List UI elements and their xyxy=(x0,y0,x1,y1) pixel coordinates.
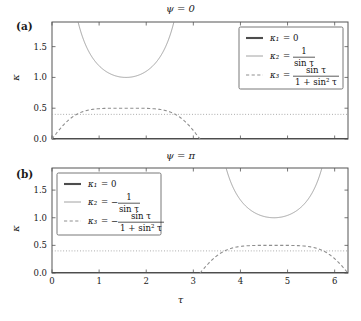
y-tick-label: 0.5 xyxy=(33,240,47,250)
y-tick-label: 0.0 xyxy=(33,268,47,278)
x-tick-label: 2 xyxy=(144,276,149,286)
legend-value-1: 0 xyxy=(111,179,116,189)
legend-equals-1: = xyxy=(283,33,290,43)
legend-numerator-3: sin τ xyxy=(306,65,326,75)
legend-equals-3: = xyxy=(283,70,290,80)
legend-equals-2: = xyxy=(283,51,290,61)
y-tick-label: 1.0 xyxy=(33,72,47,82)
panel-b-title: ψ = π xyxy=(0,150,361,161)
panel-a-tag: (a) xyxy=(16,20,33,32)
panel-a: (a) ψ = 0 κ 0.00.51.01.5κ₁=0κ₂=1sin τκ₃=… xyxy=(0,0,361,155)
x-tick-label: 0 xyxy=(49,276,54,286)
x-tick-label: 1 xyxy=(96,276,101,286)
x-tick-label: 3 xyxy=(191,276,196,286)
y-tick-label: 1.5 xyxy=(33,185,47,195)
legend-sign-2: − xyxy=(111,197,118,207)
y-tick-label: 1.0 xyxy=(33,213,47,223)
x-tick-label: 5 xyxy=(285,276,290,286)
legend-numerator-3: sin τ xyxy=(131,211,151,221)
legend-equals-3: = xyxy=(101,216,108,226)
y-tick-label: 1.5 xyxy=(33,42,47,52)
panel-b: (b) ψ = π κ τ 01234560.00.51.01.5κ₁=0κ₂=… xyxy=(0,155,361,321)
legend-label-3: κ₃ xyxy=(269,70,280,80)
panel-b-y-axis-label: κ xyxy=(10,222,21,236)
legend-label-3: κ₃ xyxy=(87,216,98,226)
figure-curvature-branches: (a) ψ = 0 κ 0.00.51.01.5κ₁=0κ₂=1sin τκ₃=… xyxy=(0,0,361,321)
legend-equals-1: = xyxy=(101,179,108,189)
legend-label-2: κ₂ xyxy=(87,197,98,207)
y-tick-label: 0.0 xyxy=(33,134,47,144)
panel-b-tag: (b) xyxy=(16,168,33,180)
legend-label-1: κ₁ xyxy=(269,33,279,43)
legend: κ₁=0κ₂=−1sin τκ₃=−sin τ1 + sin² τ xyxy=(57,173,164,235)
panel-a-title: ψ = 0 xyxy=(0,3,361,14)
legend-equals-2: = xyxy=(101,197,108,207)
legend-denominator-3: 1 + sin² τ xyxy=(120,223,162,233)
y-tick-label: 0.5 xyxy=(33,103,47,113)
legend-numerator-2: 1 xyxy=(301,46,306,56)
legend-value-1: 0 xyxy=(293,33,298,43)
curve-kappa3 xyxy=(200,245,348,273)
legend: κ₁=0κ₂=1sin τκ₃=sin τ1 + sin² τ xyxy=(239,27,343,89)
panel-a-plot: 0.00.51.01.5κ₁=0κ₂=1sin τκ₃=sin τ1 + sin… xyxy=(0,0,361,155)
legend-sign-3: − xyxy=(111,216,118,226)
panel-a-y-axis-label: κ xyxy=(10,71,21,85)
legend-label-1: κ₁ xyxy=(87,179,97,189)
x-axis-label: τ xyxy=(0,294,361,305)
legend-label-2: κ₂ xyxy=(269,51,280,61)
x-tick-label: 4 xyxy=(238,276,243,286)
curve-kappa3 xyxy=(52,108,200,139)
x-tick-label: 6 xyxy=(332,276,337,286)
legend-denominator-3: 1 + sin² τ xyxy=(295,77,337,87)
legend-numerator-2: 1 xyxy=(126,192,131,202)
